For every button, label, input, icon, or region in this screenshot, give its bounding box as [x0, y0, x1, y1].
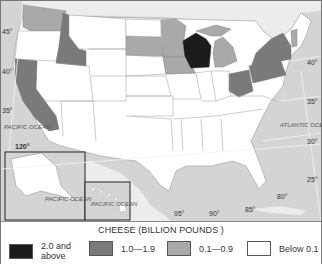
state-north-dakota [126, 19, 161, 37]
lon-label: 85° [245, 206, 256, 213]
state-south-dakota [126, 36, 163, 56]
lat-label: 25° [307, 176, 318, 183]
legend: CHEESE (BILLION POUNDS ) 2.0 and above 1… [1, 221, 321, 264]
legend-item-white: Below 0.1 [247, 241, 319, 256]
legend-label: 2.0 and above [41, 241, 75, 261]
legend-label: 0.1—0.9 [199, 244, 233, 254]
legend-swatch [247, 241, 271, 256]
lat-label: 35° [307, 98, 318, 105]
ocean-label-hawaii: PACIFIC OCEAN [91, 201, 138, 207]
legend-item-light: 0.1—0.9 [167, 241, 233, 256]
state-montana [69, 15, 126, 49]
lon-label: 80° [277, 193, 288, 200]
state-oregon [15, 31, 63, 61]
ocean-label-atlantic: ATLANTIC OCEAN [279, 122, 321, 128]
state-vermont [291, 29, 297, 47]
map-svg: 45° 40° 35° 40° 35° 30° 25° 120° 95° 90°… [1, 1, 321, 221]
legend-swatch [89, 241, 113, 256]
lat-label: 40° [2, 68, 13, 75]
legend-label: 1.0—1.9 [121, 244, 155, 254]
lat-label: 35° [2, 107, 13, 114]
lat-label: 30° [307, 138, 318, 145]
us-cheese-map: 45° 40° 35° 40° 35° 30° 25° 120° 95° 90°… [1, 1, 321, 221]
legend-item-mid: 1.0—1.9 [89, 241, 155, 256]
state-minnesota [161, 19, 186, 57]
lat-label: 40° [307, 59, 318, 66]
ocean-label-pacific: PACIFIC OCEAN [4, 124, 51, 130]
lon-label: 120° [15, 143, 30, 150]
map-figure: 45° 40° 35° 40° 35° 30° 25° 120° 95° 90°… [0, 0, 322, 264]
lon-label: 90° [209, 210, 220, 217]
legend-swatch [167, 241, 191, 256]
legend-title: CHEESE (BILLION POUNDS ) [1, 225, 321, 235]
ocean-label-alaska: PACIFIC OCEAN [45, 196, 92, 202]
legend-item-dark: 2.0 and above [9, 241, 75, 261]
lat-label: 45° [2, 28, 13, 35]
legend-swatch [9, 244, 33, 259]
legend-label: Below 0.1 [279, 244, 319, 254]
lon-label: 95° [174, 210, 185, 217]
